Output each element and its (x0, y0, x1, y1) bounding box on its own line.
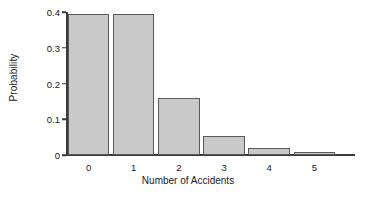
y-tick-mark (62, 83, 66, 85)
bar-chart-figure: Probability 00.10.20.30.4012345 Number o… (0, 0, 376, 199)
bar (203, 136, 245, 155)
y-axis-title: Probability (6, 0, 22, 155)
bar (294, 152, 336, 155)
y-axis-title-text: Probability (9, 54, 20, 102)
x-tick-label: 5 (312, 162, 317, 173)
y-tick-mark (62, 154, 66, 156)
y-tick-mark (62, 11, 66, 13)
plot-area: 00.10.20.30.4012345 (66, 12, 355, 155)
y-tick-label: 0.1 (47, 114, 60, 125)
x-tick-label: 0 (86, 162, 91, 173)
y-tick-mark (62, 119, 66, 121)
x-axis-title-text: Number of Accidents (142, 175, 234, 186)
bar (158, 98, 200, 155)
bar (248, 148, 290, 156)
y-tick-label: 0 (55, 150, 60, 161)
x-axis-title: Number of Accidents (0, 175, 376, 186)
y-tick-label: 0.3 (47, 42, 60, 53)
x-tick-label: 2 (176, 162, 181, 173)
y-tick-mark (62, 47, 66, 49)
x-tick-label: 1 (131, 162, 136, 173)
x-tick-label: 3 (221, 162, 226, 173)
y-tick-label: 0.4 (47, 7, 60, 18)
x-tick-label: 4 (267, 162, 272, 173)
bar (113, 14, 155, 155)
y-tick-label: 0.2 (47, 78, 60, 89)
bar (68, 14, 110, 155)
